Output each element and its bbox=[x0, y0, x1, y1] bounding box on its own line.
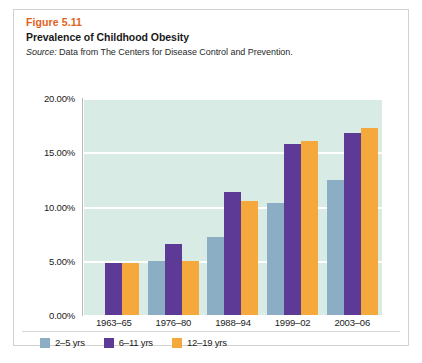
bar-group bbox=[267, 98, 318, 315]
x-axis: 1963–651976–801988–941999–022003–06 bbox=[84, 317, 382, 328]
figure-card: Figure 5.11 Prevalence of Childhood Obes… bbox=[13, 9, 409, 346]
legend-item[interactable]: 6–11 yrs bbox=[104, 337, 153, 348]
figure-header: Figure 5.11 Prevalence of Childhood Obes… bbox=[26, 16, 400, 59]
bar-group bbox=[148, 98, 199, 315]
y-axis-line bbox=[82, 98, 83, 316]
source-label: Source: bbox=[26, 47, 57, 57]
bar bbox=[361, 128, 378, 315]
bar-group bbox=[327, 98, 378, 315]
bar bbox=[182, 261, 199, 315]
bar bbox=[148, 261, 165, 315]
legend-label: 12–19 yrs bbox=[187, 337, 227, 348]
y-axis-tick-label: 20.00% bbox=[44, 93, 75, 104]
y-axis-tick-label: 0.00% bbox=[49, 310, 75, 321]
legend-color-swatch bbox=[104, 338, 114, 348]
bar bbox=[224, 192, 241, 315]
bar bbox=[327, 180, 344, 315]
bar bbox=[301, 141, 318, 315]
legend-label: 6–11 yrs bbox=[119, 337, 153, 348]
legend-item[interactable]: 12–19 yrs bbox=[172, 337, 227, 348]
bar bbox=[284, 144, 301, 315]
figure-source: Source: Data from The Centers for Diseas… bbox=[26, 45, 400, 59]
x-axis-tick-label: 1988–94 bbox=[205, 317, 260, 328]
figure-number: Figure 5.11 bbox=[26, 16, 400, 29]
bar bbox=[105, 263, 122, 315]
x-axis-tick-label: 1999–02 bbox=[265, 317, 320, 328]
y-axis-tick-label: 5.00% bbox=[49, 255, 75, 266]
chart-legend: 2–5 yrs6–11 yrs12–19 yrs bbox=[40, 337, 227, 348]
x-axis-tick-label: 1976–80 bbox=[146, 317, 201, 328]
bar bbox=[122, 263, 139, 315]
bar-group bbox=[207, 98, 258, 315]
bar-group bbox=[88, 98, 139, 315]
bar bbox=[207, 237, 224, 315]
plot-area bbox=[84, 98, 382, 315]
y-axis: 0.00%5.00%10.00%15.00%20.00% bbox=[14, 98, 80, 315]
bars-layer bbox=[84, 98, 382, 315]
legend-item[interactable]: 2–5 yrs bbox=[40, 337, 85, 348]
legend-divider bbox=[22, 331, 400, 332]
figure-title: Prevalence of Childhood Obesity bbox=[26, 30, 400, 45]
y-axis-tick-label: 15.00% bbox=[44, 147, 75, 158]
x-axis-tick-label: 1963–65 bbox=[86, 317, 141, 328]
bar bbox=[344, 133, 361, 315]
y-axis-tick-label: 10.00% bbox=[44, 201, 75, 212]
bar bbox=[165, 244, 182, 315]
bar-chart: 0.00%5.00%10.00%15.00%20.00% 1963–651976… bbox=[14, 78, 408, 346]
x-axis-tick-label: 2003–06 bbox=[325, 317, 380, 328]
bar bbox=[241, 201, 258, 315]
source-text: Data from The Centers for Disease Contro… bbox=[57, 47, 293, 57]
legend-color-swatch bbox=[172, 338, 182, 348]
legend-color-swatch bbox=[40, 338, 50, 348]
legend-label: 2–5 yrs bbox=[55, 337, 85, 348]
bar bbox=[267, 203, 284, 315]
